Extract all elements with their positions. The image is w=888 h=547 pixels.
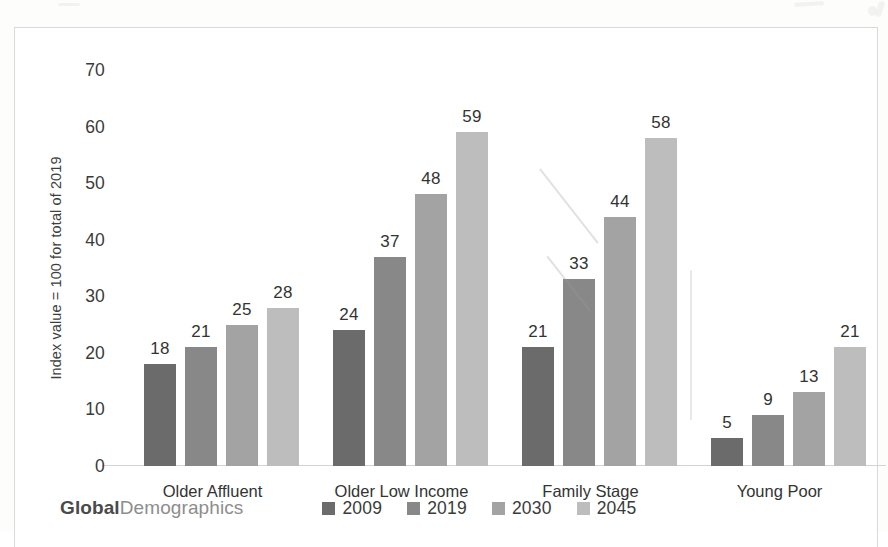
bar-rect: 21 — [834, 347, 866, 466]
bar-group: 24374859Older Low Income — [307, 70, 496, 466]
legend-label: 2030 — [512, 498, 552, 519]
bar-group: 591321Young Poor — [685, 70, 874, 466]
bar-rect: 48 — [415, 194, 447, 466]
bar-value-label: 28 — [273, 283, 292, 303]
brand-name-primary: Global — [60, 497, 120, 518]
bar-value-label: 13 — [799, 367, 818, 387]
bar-value-label: 59 — [462, 107, 481, 127]
bar-group: 21334458Family Stage — [496, 70, 685, 466]
bar-group: 18212528Older Affluent — [118, 70, 307, 466]
chart-area: Index value = 100 for total of 2019 7060… — [14, 27, 878, 547]
chart-footer: GlobalDemographics 2009201920302045 — [14, 484, 878, 532]
chart-legend: 2009201920302045 — [322, 498, 636, 519]
legend-item-2030[interactable]: 2030 — [492, 498, 552, 519]
y-axis-tick-0: 0 — [95, 456, 105, 477]
y-axis-title-label: Index value = 100 for total of 2019 — [48, 156, 64, 379]
bar-value-label: 33 — [569, 254, 588, 274]
y-axis-tick-10: 10 — [85, 399, 105, 420]
bar-rect: 21 — [522, 347, 554, 466]
y-axis-title: Index value = 100 for total of 2019 — [45, 70, 67, 466]
bar-rect: 33 — [563, 279, 595, 466]
bar-value-label: 48 — [421, 169, 440, 189]
bar-value-label: 9 — [763, 390, 773, 410]
legend-swatch-icon — [492, 502, 505, 515]
y-axis-tick-60: 60 — [85, 116, 105, 137]
bar-value-label: 21 — [528, 322, 547, 342]
bar-2030-older-affluent[interactable]: 25 — [226, 70, 258, 466]
scan-artifact — [794, 1, 824, 7]
bar-rect: 59 — [456, 132, 488, 466]
bar-rect: 9 — [752, 415, 784, 466]
bar-rect: 18 — [144, 364, 176, 466]
legend-label: 2045 — [597, 498, 637, 519]
legend-label: 2009 — [342, 498, 382, 519]
legend-label: 2019 — [427, 498, 467, 519]
y-axis-tick-50: 50 — [85, 173, 105, 194]
bar-value-label: 5 — [722, 413, 732, 433]
bar-rect: 5 — [711, 438, 743, 466]
bar-rect: 21 — [185, 347, 217, 466]
bar-2045-young-poor[interactable]: 21 — [834, 70, 866, 466]
plot-area: 706050403020100 18212528Older Affluent24… — [118, 70, 874, 466]
bar-2030-young-poor[interactable]: 13 — [793, 70, 825, 466]
y-axis-tick-70: 70 — [85, 60, 105, 81]
y-axis-tick-30: 30 — [85, 286, 105, 307]
bar-2009-family-stage[interactable]: 21 — [522, 70, 554, 466]
bar-value-label: 18 — [150, 339, 169, 359]
bar-value-label: 37 — [380, 232, 399, 252]
bar-2045-older-low-income[interactable]: 59 — [456, 70, 488, 466]
brand-name-secondary: Demographics — [120, 497, 244, 518]
bar-rect: 24 — [333, 330, 365, 466]
bar-value-label: 44 — [610, 192, 629, 212]
bar-value-label: 24 — [339, 305, 358, 325]
bar-rect: 13 — [793, 392, 825, 466]
bar-groups: 18212528Older Affluent24374859Older Low … — [118, 70, 874, 466]
legend-swatch-icon — [322, 502, 335, 515]
bar-2030-family-stage[interactable]: 44 — [604, 70, 636, 466]
y-axis-tick-40: 40 — [85, 229, 105, 250]
bar-rect: 28 — [267, 308, 299, 466]
scan-artifact — [58, 3, 80, 6]
bar-rect: 37 — [374, 257, 406, 466]
bar-2019-older-low-income[interactable]: 37 — [374, 70, 406, 466]
bar-2019-young-poor[interactable]: 9 — [752, 70, 784, 466]
scan-artifact — [875, 0, 886, 17]
bar-rect: 44 — [604, 217, 636, 466]
bar-value-label: 58 — [651, 113, 670, 133]
legend-item-2045[interactable]: 2045 — [577, 498, 637, 519]
bar-2019-older-affluent[interactable]: 21 — [185, 70, 217, 466]
bar-2019-family-stage[interactable]: 33 — [563, 70, 595, 466]
bar-2045-family-stage[interactable]: 58 — [645, 70, 677, 466]
bar-2009-older-affluent[interactable]: 18 — [144, 70, 176, 466]
y-axis-tick-20: 20 — [85, 342, 105, 363]
legend-swatch-icon — [577, 502, 590, 515]
brand-logo: GlobalDemographics — [60, 497, 243, 519]
bar-value-label: 25 — [232, 300, 251, 320]
bar-2009-older-low-income[interactable]: 24 — [333, 70, 365, 466]
legend-swatch-icon — [407, 502, 420, 515]
bar-rect: 25 — [226, 325, 258, 466]
bar-value-label: 21 — [840, 322, 859, 342]
legend-item-2019[interactable]: 2019 — [407, 498, 467, 519]
bar-rect: 58 — [645, 138, 677, 466]
bar-2030-older-low-income[interactable]: 48 — [415, 70, 447, 466]
bar-2009-young-poor[interactable]: 5 — [711, 70, 743, 466]
bar-2045-older-affluent[interactable]: 28 — [267, 70, 299, 466]
bar-value-label: 21 — [191, 322, 210, 342]
legend-item-2009[interactable]: 2009 — [322, 498, 382, 519]
